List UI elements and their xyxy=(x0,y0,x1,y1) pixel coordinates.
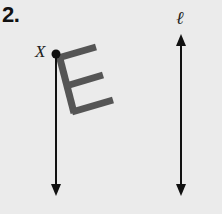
figure-e xyxy=(58,47,113,113)
reflection-diagram xyxy=(0,0,222,214)
line-l xyxy=(176,34,186,196)
arrow-up-icon xyxy=(176,34,186,46)
arrow-down-icon xyxy=(176,184,186,196)
ray-from-x xyxy=(51,54,61,196)
arrow-down-icon xyxy=(51,184,61,196)
point-x xyxy=(52,50,61,59)
